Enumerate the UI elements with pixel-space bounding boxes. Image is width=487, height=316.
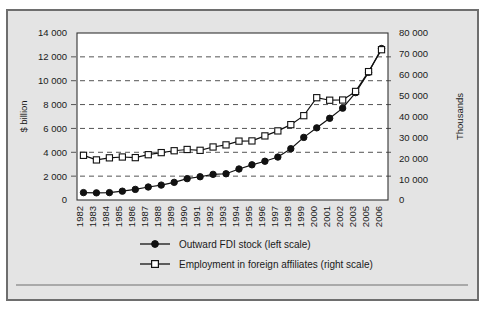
y-axis-right-tick-label: 80 000 bbox=[399, 27, 428, 38]
y-axis-right-tick-label: 0 bbox=[399, 194, 404, 205]
x-axis-year-label: 2005 bbox=[360, 206, 371, 227]
data-point-marker bbox=[223, 142, 229, 148]
x-axis-year-label: 1986 bbox=[126, 206, 137, 227]
x-axis-year-label: 1996 bbox=[256, 206, 267, 227]
x-axis-year-label: 2000 bbox=[308, 206, 319, 227]
data-point-marker bbox=[340, 97, 346, 103]
x-axis-year-label: 1999 bbox=[295, 206, 306, 227]
data-point-marker bbox=[171, 148, 177, 154]
data-point-marker bbox=[378, 47, 384, 53]
y-axis-right-tick-label: 40 000 bbox=[399, 111, 428, 122]
fdi-employment-line-chart: 02 0004 0006 0008 00010 00012 00014 0000… bbox=[6, 9, 479, 301]
data-point-marker bbox=[365, 69, 371, 75]
y-axis-left-title: $ billion bbox=[18, 100, 29, 132]
y-axis-right-tick-label: 70 000 bbox=[399, 48, 428, 59]
x-axis-year-label: 1993 bbox=[217, 206, 228, 227]
x-axis-year-label: 1988 bbox=[152, 206, 163, 227]
y-axis-left-tick-label: 4 000 bbox=[43, 147, 67, 158]
figure-container: 02 0004 0006 0008 00010 00012 00014 0000… bbox=[0, 0, 487, 316]
y-axis-right-tick-label: 20 000 bbox=[399, 153, 428, 164]
data-point-marker bbox=[184, 175, 190, 181]
legend-marker-filled-circle-icon bbox=[152, 241, 159, 248]
data-point-marker bbox=[132, 155, 138, 161]
data-point-marker bbox=[223, 171, 229, 177]
y-axis-right-tick-label: 30 000 bbox=[399, 132, 428, 143]
data-point-marker bbox=[93, 157, 99, 163]
data-point-marker bbox=[249, 162, 255, 168]
x-axis-year-label: 1982 bbox=[74, 206, 85, 227]
x-axis-year-label: 2002 bbox=[334, 206, 345, 227]
data-point-marker bbox=[119, 188, 125, 194]
x-axis-year-label: 1987 bbox=[139, 206, 150, 227]
data-point-marker bbox=[314, 125, 320, 131]
data-point-marker bbox=[314, 95, 320, 101]
data-point-marker bbox=[184, 146, 190, 152]
data-point-marker bbox=[145, 152, 151, 158]
x-axis-year-label: 1997 bbox=[269, 206, 280, 227]
x-axis-year-label: 1990 bbox=[178, 206, 189, 227]
data-point-marker bbox=[301, 134, 307, 140]
y-axis-left-tick-label: 8 000 bbox=[43, 99, 67, 110]
data-point-marker bbox=[80, 152, 86, 158]
x-axis-year-label: 2003 bbox=[347, 206, 358, 227]
x-axis-year-label: 1983 bbox=[87, 206, 98, 227]
x-axis-year-label: 1989 bbox=[165, 206, 176, 227]
y-axis-right-tick-label: 50 000 bbox=[399, 90, 428, 101]
data-point-marker bbox=[288, 122, 294, 128]
x-axis-year-label: 1984 bbox=[100, 206, 111, 227]
x-axis-year-label: 1991 bbox=[191, 206, 202, 227]
data-point-marker bbox=[353, 88, 359, 94]
plot-background bbox=[77, 33, 388, 200]
data-point-marker bbox=[197, 147, 203, 153]
data-point-marker bbox=[106, 155, 112, 161]
legend-marker-open-square-icon bbox=[152, 261, 159, 268]
data-point-marker bbox=[210, 144, 216, 150]
y-axis-right-tick-label: 60 000 bbox=[399, 69, 428, 80]
x-axis-year-label: 2006 bbox=[373, 206, 384, 227]
data-point-marker bbox=[210, 171, 216, 177]
data-point-marker bbox=[288, 146, 294, 152]
x-axis-year-label: 1992 bbox=[204, 206, 215, 227]
y-axis-left-tick-label: 0 bbox=[62, 194, 67, 205]
data-point-marker bbox=[158, 150, 164, 156]
data-point-marker bbox=[119, 154, 125, 160]
data-point-marker bbox=[262, 133, 268, 139]
data-point-marker bbox=[197, 174, 203, 180]
x-axis-year-label: 1994 bbox=[230, 206, 241, 227]
y-axis-left-tick-label: 2 000 bbox=[43, 171, 67, 182]
legend-item-label: Employment in foreign affiliates (right … bbox=[179, 259, 373, 270]
y-axis-left-tick-label: 6 000 bbox=[43, 123, 67, 134]
data-point-marker bbox=[171, 179, 177, 185]
y-axis-right-title: Thousands bbox=[454, 93, 465, 140]
x-axis-year-label: 2001 bbox=[321, 206, 332, 227]
data-point-marker bbox=[106, 189, 112, 195]
data-point-marker bbox=[275, 128, 281, 134]
legend-item-label: Outward FDI stock (left scale) bbox=[179, 239, 311, 250]
data-point-marker bbox=[145, 184, 151, 190]
y-axis-left-tick-label: 14 000 bbox=[38, 27, 67, 38]
data-point-marker bbox=[158, 182, 164, 188]
y-axis-right-tick-label: 10 000 bbox=[399, 174, 428, 185]
data-point-marker bbox=[236, 166, 242, 172]
data-point-marker bbox=[275, 154, 281, 160]
data-point-marker bbox=[339, 105, 345, 111]
data-point-marker bbox=[326, 115, 332, 121]
x-axis-year-label: 1995 bbox=[243, 206, 254, 227]
data-point-marker bbox=[301, 113, 307, 119]
data-point-marker bbox=[262, 158, 268, 164]
data-point-marker bbox=[93, 190, 99, 196]
data-point-marker bbox=[80, 189, 86, 195]
data-point-marker bbox=[132, 186, 138, 192]
data-point-marker bbox=[327, 97, 333, 103]
data-point-marker bbox=[236, 138, 242, 144]
y-axis-left-tick-label: 10 000 bbox=[38, 75, 67, 86]
data-point-marker bbox=[249, 138, 255, 144]
x-axis-year-label: 1985 bbox=[113, 206, 124, 227]
y-axis-left-tick-label: 12 000 bbox=[38, 51, 67, 62]
x-axis-year-label: 1998 bbox=[282, 206, 293, 227]
